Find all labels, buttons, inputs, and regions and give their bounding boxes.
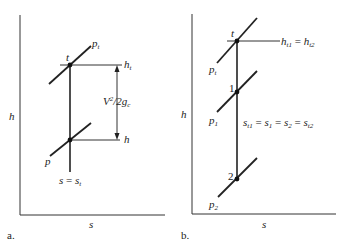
b-isobar-top-label: pt xyxy=(208,63,218,77)
diagram-a: h s a. t pt p ht h V2/2gc s = st xyxy=(7,15,165,241)
b-point-t-label: t xyxy=(231,27,235,39)
b-point-1-label: 1 xyxy=(229,82,235,94)
a-isobar-bottom-label: p xyxy=(44,155,51,167)
b-point-t xyxy=(235,39,240,44)
a-point-t xyxy=(68,63,73,68)
b-point-1 xyxy=(235,90,240,95)
a-velocity-label: V2/2gc xyxy=(103,95,131,109)
diagram-b: h s b. t 1 2 pt p1 p2 ht1 = ht2 st1 = s1… xyxy=(181,14,336,241)
b-isobar-1-label: p1 xyxy=(208,114,218,128)
b-point-2 xyxy=(235,177,240,182)
a-point-t-label: t xyxy=(66,51,70,63)
a-x-axis-label: s xyxy=(89,218,93,230)
a-point-bottom xyxy=(68,138,73,143)
a-isobar-top-label: pt xyxy=(91,37,101,51)
a-arrow-down-icon xyxy=(115,133,120,140)
a-panel-label: a. xyxy=(7,229,15,241)
a-y-axis-label: h xyxy=(9,110,15,122)
b-entropy-label: st1 = s1 = s2 = st2 xyxy=(243,116,314,130)
figure-canvas: h s a. t pt p ht h V2/2gc s = st h s b. xyxy=(0,0,346,247)
b-isobar-2-label: p2 xyxy=(208,198,219,212)
b-point-2-label: 2 xyxy=(228,170,234,182)
a-entropy-label: s = st xyxy=(59,174,82,188)
b-y-axis-label: h xyxy=(181,108,187,120)
b-x-axis-label: s xyxy=(262,218,266,230)
a-h-label: h xyxy=(124,133,130,145)
a-ht-label: ht xyxy=(124,58,133,72)
b-enthalpy-label: ht1 = ht2 xyxy=(281,35,315,49)
a-arrow-up-icon xyxy=(115,65,120,72)
b-panel-label: b. xyxy=(181,229,190,241)
